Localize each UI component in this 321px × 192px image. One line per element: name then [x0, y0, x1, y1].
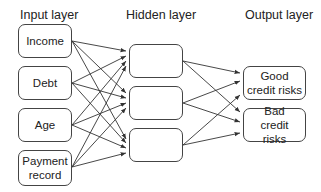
output-node-bad-credit: Bad credit risks [243, 108, 306, 142]
input-node-payment-record: Payment record [18, 150, 72, 186]
input-node-income: Income [18, 24, 72, 58]
output-node-good-credit: Good credit risks [243, 66, 306, 100]
hidden-node-1 [129, 44, 183, 78]
hidden-node-3 [129, 128, 183, 162]
hidden-node-2 [129, 86, 183, 120]
input-node-debt: Debt [18, 66, 72, 100]
input-node-age: Age [18, 108, 72, 142]
